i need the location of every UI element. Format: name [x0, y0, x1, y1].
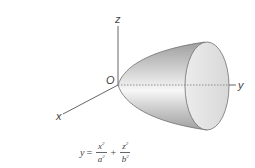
equation-plus: +: [111, 147, 117, 158]
term1-denominator-exponent: 2: [102, 154, 105, 159]
y-axis-label: y: [237, 79, 245, 91]
paraboloid-equation: y = x2 a2 + z2 b2: [80, 138, 160, 166]
paraboloid-end-cap: [185, 42, 229, 130]
fraction-x-over-a: x2 a2: [96, 141, 107, 164]
term2-denominator-exponent: 2: [126, 154, 129, 159]
x-axis: [63, 85, 118, 114]
paraboloid-diagram: z x y O y = x2 a2 + z2 b2: [0, 0, 255, 168]
term2-numerator-exponent: 2: [126, 141, 129, 146]
z-axis-label: z: [114, 13, 121, 25]
origin-label: O: [106, 74, 115, 86]
fraction-z-over-b: z2 b2: [120, 141, 130, 164]
term1-numerator-exponent: 2: [102, 141, 105, 146]
equation-lhs: y: [80, 147, 84, 158]
equation-equals: =: [86, 147, 92, 158]
x-axis-label: x: [55, 110, 62, 122]
